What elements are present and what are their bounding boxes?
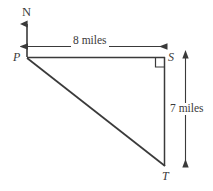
triangle-PST (27, 57, 165, 166)
right-angle-marker (156, 58, 165, 67)
dimension-label-7-miles: 7 miles (168, 103, 206, 115)
vertex-label-t: T (162, 170, 169, 182)
vertex-label-s: S (168, 51, 174, 63)
segment-PT (27, 58, 165, 166)
dimension-label-8-miles: 8 miles (71, 35, 109, 47)
compass-north-label: N (22, 6, 31, 19)
figure-canvas (0, 0, 213, 191)
vertex-label-p: P (13, 51, 20, 63)
geometry-figure: N P S T 8 miles 7 miles (0, 0, 213, 191)
